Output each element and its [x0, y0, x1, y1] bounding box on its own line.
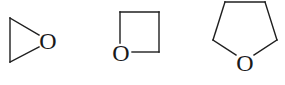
- oxirane-bond-c-o-bottom: [10, 47, 39, 62]
- oxetane-oxygen-label: O: [112, 40, 129, 66]
- thf-oxygen-label: O: [236, 50, 253, 76]
- oxirane-structure: O: [10, 18, 57, 62]
- thf-bond-upper-left: [213, 2, 225, 40]
- cyclic-ethers-diagram: O O O: [0, 0, 285, 85]
- tetrahydrofuran-structure: O: [213, 2, 277, 76]
- thf-bond-lower-right: [254, 40, 277, 55]
- thf-bond-lower-left: [213, 40, 236, 55]
- thf-bond-upper-right: [265, 2, 277, 40]
- oxetane-structure: O: [112, 12, 159, 66]
- oxirane-bond-c-o-top: [10, 18, 39, 35]
- oxirane-oxygen-label: O: [39, 28, 56, 54]
